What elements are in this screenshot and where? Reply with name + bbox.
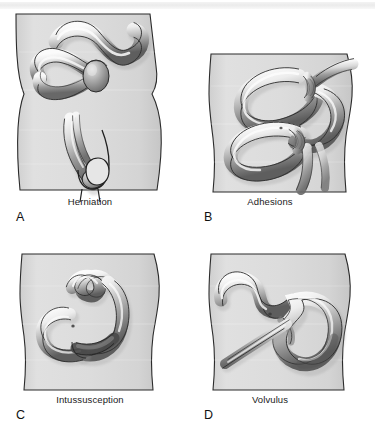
adhesions-illustration	[195, 52, 365, 202]
top-scan-band	[0, 2, 375, 9]
panel-caption-adhesions: Adhesions	[185, 196, 355, 207]
panel-letter-a: A	[16, 211, 24, 224]
panel-letter-b: B	[204, 211, 212, 224]
panel-caption-volvulus: Volvulus	[185, 394, 355, 405]
panel-adhesions	[195, 52, 365, 202]
scrotum-shape	[86, 158, 109, 185]
herniation-illustration	[10, 12, 170, 202]
panel-volvulus	[195, 252, 365, 400]
panel-caption-intussusception: Intussusception	[10, 394, 170, 405]
mesentery-mark	[279, 127, 282, 130]
hernia-sac-upper	[83, 60, 109, 92]
panel-caption-herniation: Herniation	[10, 196, 170, 207]
mesentery-mark	[268, 313, 272, 316]
volvulus-illustration	[195, 252, 365, 400]
mesentery-mark	[71, 325, 74, 328]
panel-letter-c: C	[16, 409, 25, 422]
intussusception-illustration	[10, 252, 170, 400]
figure-root: Herniation A Adhesions B Intussusception…	[0, 0, 375, 422]
panel-intussusception	[10, 252, 170, 400]
panel-herniation	[10, 12, 170, 202]
panel-letter-d: D	[204, 409, 213, 422]
